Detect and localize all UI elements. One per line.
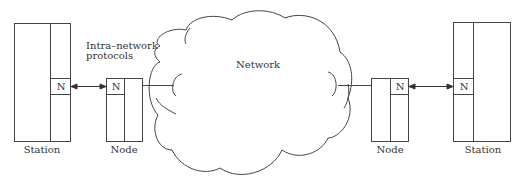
right-node-label: Node (376, 145, 403, 155)
right-station-n-layer: N (454, 79, 474, 95)
network-label: Network (236, 60, 280, 70)
diagram-graphics (0, 0, 521, 181)
network-cloud (149, 11, 352, 175)
left-node-n-layer: N (107, 79, 125, 95)
left-station-n-layer: N (51, 79, 71, 95)
network-diagram: N N N N Intra–network protocols Network … (0, 0, 521, 181)
left-node-label: Node (110, 145, 137, 155)
protocol-annotation-line2: protocols (86, 51, 133, 61)
right-node-n-layer: N (391, 79, 409, 95)
right-station-label: Station (465, 145, 502, 155)
left-station-label: Station (24, 145, 61, 155)
right-protocol-arrow (409, 84, 453, 89)
left-protocol-arrow (71, 84, 106, 89)
